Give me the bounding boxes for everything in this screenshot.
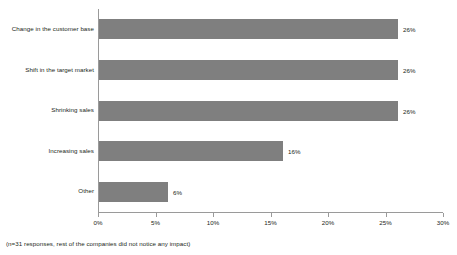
bar-value-label: 26% — [403, 26, 416, 33]
x-tick-mark — [213, 213, 214, 217]
bar-row: 26% — [98, 101, 443, 121]
x-tick-label: 15% — [264, 219, 277, 226]
category-label: Change in the customer base — [6, 25, 98, 34]
x-tick-mark — [328, 213, 329, 217]
bar-value-label: 26% — [403, 107, 416, 114]
category-label-wrap: Shift in the target market — [0, 60, 98, 80]
x-tick-label: 30% — [437, 219, 450, 226]
bar-row: 26% — [98, 19, 443, 39]
bar — [99, 19, 398, 39]
bar — [99, 101, 398, 121]
x-tick-label: 10% — [207, 219, 220, 226]
category-label: Shrinking sales — [6, 106, 98, 115]
x-tick-label: 5% — [151, 219, 160, 226]
x-tick-label: 20% — [322, 219, 335, 226]
bar — [99, 60, 398, 80]
category-label-wrap: Change in the customer base — [0, 19, 98, 39]
category-label: Increasing sales — [6, 147, 98, 156]
bar-value-label: 26% — [403, 66, 416, 73]
x-tick-label: 0% — [93, 219, 102, 226]
category-label: Shift in the target market — [6, 66, 98, 75]
x-tick-mark — [271, 213, 272, 217]
category-label-wrap: Shrinking sales — [0, 101, 98, 121]
x-tick-label: 25% — [379, 219, 392, 226]
bar-row: 16% — [98, 141, 443, 161]
category-label-wrap: Increasing sales — [0, 141, 98, 161]
x-tick-mark — [443, 213, 444, 217]
category-label: Other — [6, 187, 98, 196]
bar — [99, 141, 283, 161]
x-tick-mark — [98, 213, 99, 217]
x-tick-mark — [386, 213, 387, 217]
bar-value-label: 6% — [173, 188, 182, 195]
plot-area: 26%26%26%16%6% 0%5%10%15%20%25%30% — [98, 9, 443, 212]
bar — [99, 182, 168, 202]
bar-chart: Change in the customer baseShift in the … — [0, 0, 457, 255]
bar-row: 6% — [98, 182, 443, 202]
bar-row: 26% — [98, 60, 443, 80]
x-tick-mark — [156, 213, 157, 217]
bar-value-label: 16% — [288, 148, 301, 155]
category-label-wrap: Other — [0, 182, 98, 202]
chart-footnote: (n=31 responses, rest of the companies d… — [6, 240, 190, 247]
